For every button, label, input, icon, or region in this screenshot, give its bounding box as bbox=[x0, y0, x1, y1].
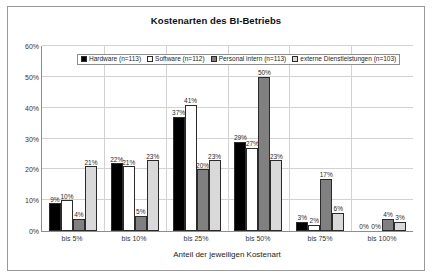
legend-item[interactable]: externe Dienstleistungen (n=103) bbox=[292, 56, 396, 63]
bar-slot: 3% bbox=[394, 46, 406, 231]
bar[interactable]: 27% bbox=[246, 148, 258, 231]
bar-value-label: 23% bbox=[208, 154, 221, 161]
bar-slot: 23% bbox=[209, 46, 221, 231]
category-label-4: bis 75% bbox=[289, 235, 351, 242]
bar[interactable]: 41% bbox=[185, 105, 197, 231]
bar[interactable]: 29% bbox=[234, 142, 246, 231]
bar[interactable]: 9% bbox=[49, 203, 61, 231]
bar-slot: 22% bbox=[111, 46, 123, 231]
bar-group: 0%0%4%3% bbox=[351, 46, 413, 231]
y-axis-tick-label: 30% bbox=[25, 135, 39, 142]
category-axis-labels: bis 5%bis 10%bis 25%bis 50%bis 75%bis 10… bbox=[41, 235, 413, 242]
bar-slot: 5% bbox=[135, 46, 147, 231]
bar-value-label: 4% bbox=[383, 212, 392, 219]
y-axis-tick-label: 20% bbox=[25, 166, 39, 173]
bar-slot: 0% bbox=[358, 46, 370, 231]
y-axis-tick-label: 0% bbox=[29, 228, 39, 235]
bar-slot: 23% bbox=[270, 46, 282, 231]
chart-legend: Hardware (n=113)Software (n=112)Personal… bbox=[77, 54, 400, 65]
y-axis-tick-label: 60% bbox=[25, 43, 39, 50]
bar-slot: 37% bbox=[173, 46, 185, 231]
legend-item[interactable]: Software (n=112) bbox=[147, 56, 205, 63]
bar-value-label: 20% bbox=[196, 163, 209, 170]
bar-value-label: 37% bbox=[172, 110, 185, 117]
bar[interactable]: 23% bbox=[270, 160, 282, 231]
bar-value-label: 21% bbox=[122, 160, 135, 167]
bar-slot: 29% bbox=[234, 46, 246, 231]
bar[interactable]: 3% bbox=[296, 222, 308, 231]
y-axis-tick-label: 10% bbox=[25, 197, 39, 204]
bar-value-label: 9% bbox=[50, 197, 59, 204]
bar[interactable]: 3% bbox=[394, 222, 406, 231]
bar-slot: 21% bbox=[85, 46, 97, 231]
bar-slot: 41% bbox=[185, 46, 197, 231]
bar[interactable]: 50% bbox=[258, 77, 270, 231]
bar-value-label: 4% bbox=[74, 212, 83, 219]
bar-group: 22%21%5%23% bbox=[104, 46, 166, 231]
bar-slot: 27% bbox=[246, 46, 258, 231]
bar-group: 29%27%50%23% bbox=[227, 46, 289, 231]
bar[interactable]: 10% bbox=[61, 200, 73, 231]
bar-value-label: 0% bbox=[359, 224, 368, 231]
bar[interactable]: 22% bbox=[111, 163, 123, 231]
bar-slot: 17% bbox=[320, 46, 332, 231]
bar-slot: 20% bbox=[197, 46, 209, 231]
bar-slot: 4% bbox=[73, 46, 85, 231]
bar-slot: 21% bbox=[123, 46, 135, 231]
chart-title: Kostenarten des BI-Betriebs bbox=[8, 15, 424, 26]
category-label-5: bis 100% bbox=[351, 235, 413, 242]
plot-area: 0%10%20%30%40%50%60% 9%10%4%21%22%21%5%2… bbox=[41, 46, 413, 232]
bar-value-label: 3% bbox=[395, 215, 404, 222]
legend-swatch-icon bbox=[147, 56, 153, 62]
bar[interactable]: 6% bbox=[332, 213, 344, 232]
bar-slot: 9% bbox=[49, 46, 61, 231]
bar-value-label: 41% bbox=[184, 98, 197, 105]
y-axis-tick-label: 50% bbox=[25, 73, 39, 80]
bar-value-label: 6% bbox=[334, 206, 343, 213]
bar-value-label: 2% bbox=[310, 218, 319, 225]
x-axis-title: Anteil der jeweiligen Kostenart bbox=[41, 250, 413, 259]
bar-slot: 0% bbox=[370, 46, 382, 231]
legend-swatch-icon bbox=[292, 56, 298, 62]
bar[interactable]: 4% bbox=[382, 219, 394, 231]
category-label-3: bis 50% bbox=[227, 235, 289, 242]
legend-label: Personal intern (n=113) bbox=[219, 56, 287, 63]
legend-label: Software (n=112) bbox=[155, 56, 205, 63]
bar-groups: 9%10%4%21%22%21%5%23%37%41%20%23%29%27%5… bbox=[42, 46, 413, 231]
bar-slot: 50% bbox=[258, 46, 270, 231]
bar-value-label: 27% bbox=[246, 141, 259, 148]
bar-value-label: 21% bbox=[84, 160, 97, 167]
bar-slot: 2% bbox=[308, 46, 320, 231]
y-axis-tick-label: 40% bbox=[25, 104, 39, 111]
legend-label: externe Dienstleistungen (n=103) bbox=[300, 56, 396, 63]
bar-value-label: 50% bbox=[258, 70, 271, 77]
bar[interactable]: 20% bbox=[197, 169, 209, 231]
bar[interactable]: 37% bbox=[173, 117, 185, 231]
legend-label: Hardware (n=113) bbox=[89, 56, 141, 63]
bar-slot: 3% bbox=[296, 46, 308, 231]
bar[interactable]: 5% bbox=[135, 216, 147, 231]
bar-value-label: 3% bbox=[298, 215, 307, 222]
bar[interactable]: 17% bbox=[320, 179, 332, 231]
bar-slot: 23% bbox=[147, 46, 159, 231]
category-label-2: bis 25% bbox=[165, 235, 227, 242]
bar-slot: 10% bbox=[61, 46, 73, 231]
bar-value-label: 17% bbox=[320, 172, 333, 179]
bar-group: 3%2%17%6% bbox=[289, 46, 351, 231]
category-label-1: bis 10% bbox=[103, 235, 165, 242]
bar-value-label: 23% bbox=[146, 154, 159, 161]
bar-value-label: 0% bbox=[371, 224, 380, 231]
bar[interactable]: 21% bbox=[123, 166, 135, 231]
bar-slot: 6% bbox=[332, 46, 344, 231]
bar[interactable]: 4% bbox=[73, 219, 85, 231]
legend-swatch-icon bbox=[211, 56, 217, 62]
bar[interactable]: 21% bbox=[85, 166, 97, 231]
bar[interactable]: 23% bbox=[147, 160, 159, 231]
legend-item[interactable]: Personal intern (n=113) bbox=[211, 56, 287, 63]
legend-item[interactable]: Hardware (n=113) bbox=[81, 56, 141, 63]
bar[interactable]: 2% bbox=[308, 225, 320, 231]
chart-frame: Kostenarten des BI-Betriebs 0%10%20%30%4… bbox=[7, 6, 425, 271]
bar[interactable]: 23% bbox=[209, 160, 221, 231]
bar-group: 37%41%20%23% bbox=[166, 46, 228, 231]
bar-value-label: 23% bbox=[270, 154, 283, 161]
